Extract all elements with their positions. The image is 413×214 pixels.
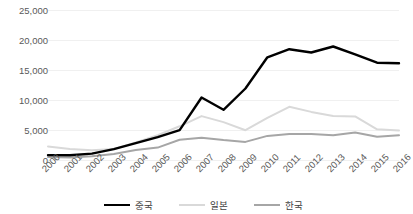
- x-axis-tick-label: 2014: [347, 152, 369, 174]
- x-axis-tick-label: 2016: [391, 152, 413, 174]
- legend-swatch-line-icon: [254, 204, 280, 206]
- legend-item[interactable]: 중국: [104, 198, 153, 212]
- x-axis-tick-label: 2002: [84, 152, 106, 174]
- legend-swatch-line-icon: [104, 204, 130, 206]
- legend-item[interactable]: 한국: [254, 198, 303, 212]
- legend-label: 한국: [285, 198, 303, 212]
- x-axis-tick-label: 2012: [303, 152, 325, 174]
- legend-swatch-line-icon: [179, 204, 205, 206]
- x-axis-tick-label: 2015: [369, 152, 391, 174]
- x-axis-tick-label: 2013: [325, 152, 347, 174]
- x-axis-tick-label: 2007: [194, 152, 216, 174]
- x-axis-tick-label: 2009: [237, 152, 259, 174]
- x-axis-tick-label: 2011: [281, 152, 303, 174]
- x-axis-tick-label: 2010: [259, 152, 281, 174]
- x-axis-tick-label: 2004: [128, 152, 150, 174]
- x-axis-tick-label: 2000: [40, 152, 62, 174]
- chart-legend: 중국일본한국: [0, 198, 407, 212]
- legend-label: 중국: [135, 198, 153, 212]
- x-axis-tick-label: 2003: [106, 152, 128, 174]
- x-axis-tick-label: 2001: [62, 152, 84, 174]
- legend-label: 일본: [210, 198, 228, 212]
- legend-item[interactable]: 일본: [179, 198, 228, 212]
- x-axis-tick-label: 2006: [172, 152, 194, 174]
- x-axis-tick-label: 2005: [150, 152, 172, 174]
- x-axis-tick-label: 2008: [216, 152, 238, 174]
